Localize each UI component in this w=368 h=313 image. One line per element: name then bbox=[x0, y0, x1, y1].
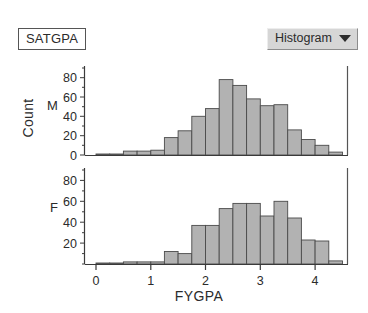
histogram-dropdown-label: Histogram bbox=[275, 31, 332, 46]
x-axis-tick-label: 3 bbox=[257, 274, 264, 288]
histogram-bar[interactable] bbox=[137, 151, 151, 155]
histogram-bar[interactable] bbox=[274, 201, 288, 264]
panel-m: 020406080 bbox=[63, 66, 348, 163]
histogram-bar[interactable] bbox=[219, 80, 233, 155]
y-axis-tick-label: 60 bbox=[63, 195, 77, 209]
plot-area: Count M F FYGPA 0204060802040608001234 bbox=[0, 58, 368, 313]
x-axis: 01234 bbox=[93, 264, 319, 288]
histogram-bar[interactable] bbox=[96, 263, 110, 264]
x-axis-title: FYGPA bbox=[0, 288, 368, 304]
histogram-bar[interactable] bbox=[315, 241, 329, 264]
histogram-bar[interactable] bbox=[206, 225, 220, 264]
y-axis-tick-label: 60 bbox=[63, 91, 77, 105]
histogram-bar[interactable] bbox=[274, 105, 288, 155]
histogram-bar[interactable] bbox=[123, 262, 137, 264]
y-axis-tick-label: 80 bbox=[63, 71, 77, 85]
chart-canvas: 0204060802040608001234 bbox=[0, 58, 368, 290]
histogram-bar[interactable] bbox=[288, 218, 302, 264]
x-axis-tick-label: 4 bbox=[312, 274, 319, 288]
histogram-bar[interactable] bbox=[288, 130, 302, 155]
histogram-bar[interactable] bbox=[192, 116, 206, 155]
y-axis-tick-label: 40 bbox=[63, 110, 77, 124]
y-axis-tick-label: 20 bbox=[63, 129, 77, 143]
y-axis-tick-label: 80 bbox=[63, 174, 77, 188]
histogram-bar[interactable] bbox=[329, 261, 343, 264]
panel-label-female: F bbox=[50, 200, 58, 215]
histogram-bar[interactable] bbox=[247, 203, 261, 264]
histogram-bar[interactable] bbox=[315, 145, 329, 155]
y-axis-tick-label: 20 bbox=[63, 237, 77, 251]
histogram-bar[interactable] bbox=[151, 150, 165, 155]
histogram-bar[interactable] bbox=[219, 209, 233, 264]
variable-name-label: SATGPA bbox=[26, 31, 78, 46]
histogram-bar[interactable] bbox=[329, 152, 343, 155]
histogram-bar[interactable] bbox=[301, 140, 315, 156]
histogram-bar[interactable] bbox=[110, 263, 124, 264]
chevron-down-icon[interactable] bbox=[339, 35, 351, 42]
histogram-bar[interactable] bbox=[164, 252, 178, 265]
panel-f: 20406080 bbox=[63, 168, 348, 265]
y-axis-tick-label: 40 bbox=[63, 216, 77, 230]
histogram-bar[interactable] bbox=[260, 216, 274, 264]
x-axis-tick-label: 1 bbox=[147, 274, 154, 288]
histogram-bar[interactable] bbox=[178, 131, 192, 155]
histogram-bar[interactable] bbox=[151, 262, 165, 264]
histogram-bar[interactable] bbox=[260, 106, 274, 155]
histogram-bar[interactable] bbox=[96, 154, 110, 155]
histogram-bar[interactable] bbox=[301, 240, 315, 264]
panel-label-male: M bbox=[47, 98, 58, 113]
y-axis-title: Count bbox=[20, 78, 36, 158]
histogram-bar[interactable] bbox=[164, 138, 178, 155]
x-axis-tick-label: 2 bbox=[202, 274, 209, 288]
histogram-bar[interactable] bbox=[110, 154, 124, 155]
histogram-bar[interactable] bbox=[178, 254, 192, 264]
variable-name-box[interactable]: SATGPA bbox=[18, 28, 86, 50]
histogram-panel: SATGPA Histogram Count M F FYGPA 0204060… bbox=[0, 0, 368, 313]
histogram-bar[interactable] bbox=[233, 203, 247, 264]
histogram-bar[interactable] bbox=[233, 85, 247, 155]
histogram-bar[interactable] bbox=[247, 99, 261, 155]
histogram-bar[interactable] bbox=[192, 225, 206, 264]
histogram-bar[interactable] bbox=[206, 109, 220, 155]
histogram-bar[interactable] bbox=[137, 262, 151, 264]
histogram-bar[interactable] bbox=[123, 151, 137, 155]
histogram-dropdown-button[interactable]: Histogram bbox=[267, 28, 358, 50]
x-axis-tick-label: 0 bbox=[93, 274, 100, 288]
y-axis-tick-label: 0 bbox=[70, 149, 77, 163]
